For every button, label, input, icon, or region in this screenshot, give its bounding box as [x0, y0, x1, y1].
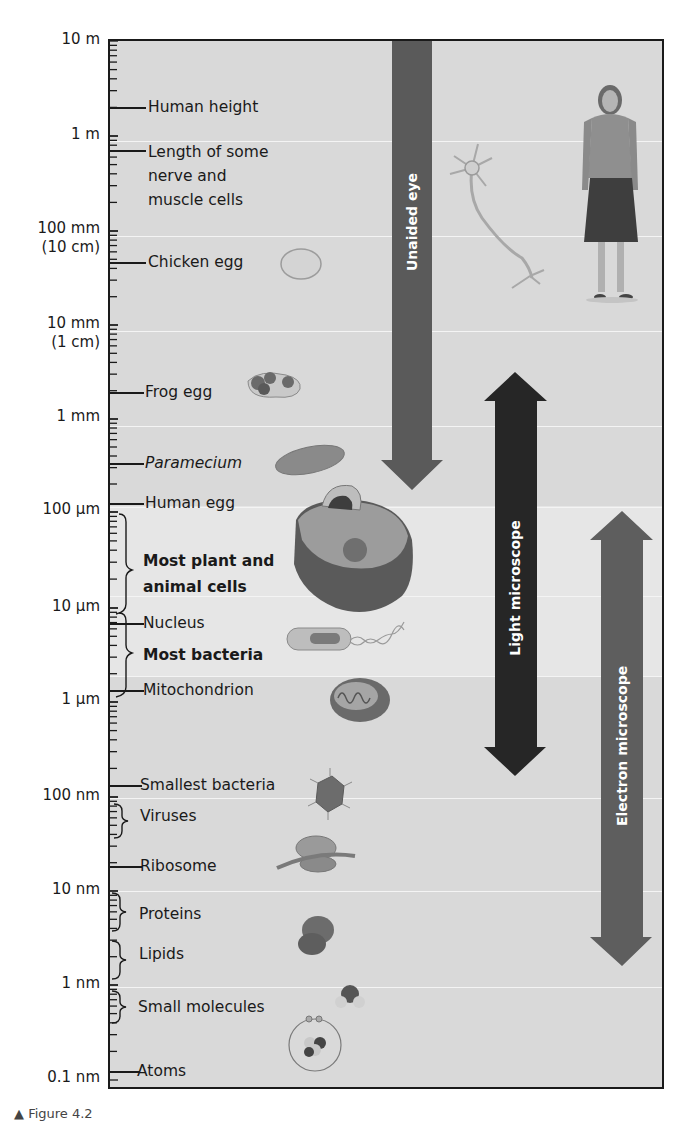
chicken-egg-icon — [281, 249, 321, 279]
animal-cell-icon — [294, 485, 413, 612]
atom-icon — [289, 1016, 341, 1071]
illustrations — [0, 0, 689, 1121]
virus-icon — [308, 768, 352, 820]
mitochondrion-icon — [330, 678, 390, 722]
water-molecule-icon — [335, 985, 365, 1008]
ribosome-icon — [277, 836, 355, 872]
bacterium-icon — [287, 622, 404, 650]
protein-icon — [298, 916, 334, 955]
human-figure-icon — [582, 85, 638, 303]
neuron-icon — [450, 144, 544, 288]
paramecium-icon — [273, 440, 347, 480]
figure-caption-fragment: ▲ Figure 4.2 — [14, 1106, 93, 1121]
frog-eggs-icon — [248, 372, 300, 397]
